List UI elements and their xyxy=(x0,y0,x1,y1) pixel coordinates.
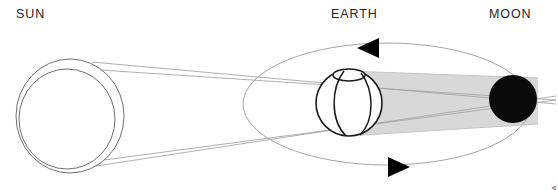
orbit-arrow-bottom-icon xyxy=(388,157,410,177)
earth-body xyxy=(316,69,382,136)
earth-polar-cap xyxy=(333,69,365,81)
sun-inner-ring xyxy=(19,69,115,169)
moon-sphere xyxy=(489,75,537,123)
orbit-arrow-top-icon xyxy=(357,38,379,58)
sun-label: SUN xyxy=(16,7,45,21)
moon-label: MOON xyxy=(489,7,532,21)
sun-body xyxy=(16,59,124,173)
copyright-credit: © Ed Noriega xyxy=(550,186,557,190)
sun-outer-ring xyxy=(16,59,124,173)
earth-label: EARTH xyxy=(331,7,378,21)
eclipse-illustration xyxy=(0,0,558,190)
lunar-eclipse-diagram: SUN EARTH MOON © Ed Noriega xyxy=(0,0,558,190)
